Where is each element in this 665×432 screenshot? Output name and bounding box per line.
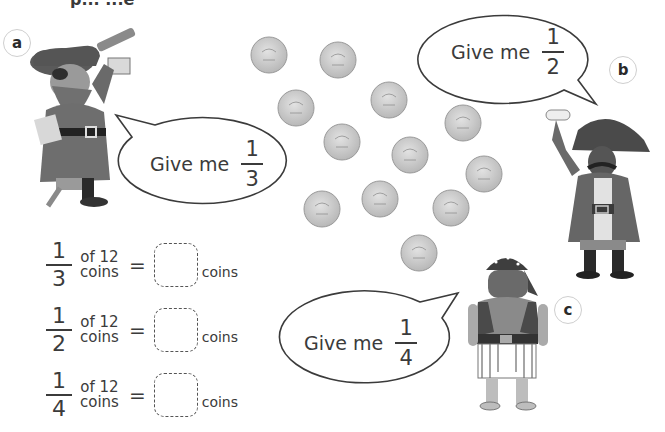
coin: [362, 181, 398, 217]
of-unit: coins: [80, 265, 119, 280]
answer-unit: coins: [202, 394, 238, 410]
of-quantity: of 12 coins: [80, 250, 119, 280]
bubble-c-prefix: Give me: [304, 332, 383, 354]
coin: [401, 235, 437, 271]
equation-fraction: 1 3: [44, 240, 74, 290]
coin: [466, 156, 502, 192]
bubble-a-text: Give me 1 3: [150, 138, 263, 190]
coin: [371, 82, 407, 118]
pirate-c-illustration: [468, 256, 548, 410]
bubble-b-denominator: 2: [547, 56, 560, 78]
of-quantity: of 12 coins: [80, 315, 119, 345]
coin: [320, 42, 356, 78]
equation-fraction: 1 4: [44, 370, 74, 420]
fraction-bar: [241, 163, 263, 165]
equation-row-quarter: 1 4 of 12 coins = coins: [44, 370, 238, 420]
equation-numerator: 1: [52, 370, 66, 392]
answer-unit: coins: [202, 329, 238, 345]
label-a: a: [3, 29, 31, 57]
bubble-c-numerator: 1: [400, 317, 413, 339]
bubble-c-denominator: 4: [400, 347, 413, 369]
answer-unit: coins: [202, 264, 238, 280]
bubble-c-fraction: 1 4: [395, 317, 417, 369]
coin: [251, 37, 287, 73]
label-b: b: [609, 56, 637, 84]
bubble-b-numerator: 1: [547, 26, 560, 48]
bubble-b-fraction: 1 2: [542, 26, 564, 78]
coin: [392, 137, 428, 173]
equals-sign: =: [129, 253, 146, 277]
bubble-b-text: Give me 1 2: [451, 26, 564, 78]
answer-box-quarter[interactable]: [154, 373, 198, 417]
equation-numerator: 1: [52, 305, 66, 327]
coin: [304, 191, 340, 227]
equation-fraction: 1 2: [44, 305, 74, 355]
bubble-b-prefix: Give me: [451, 41, 530, 63]
of-unit: coins: [80, 395, 119, 410]
bubble-c-text: Give me 1 4: [304, 317, 417, 369]
coin: [278, 90, 314, 126]
coin: [324, 124, 360, 160]
of-quantity: of 12 coins: [80, 380, 119, 410]
answer-box-third[interactable]: [154, 243, 198, 287]
equation-row-third: 1 3 of 12 coins = coins: [44, 240, 238, 290]
bubble-a-fraction: 1 3: [241, 138, 263, 190]
coin: [445, 105, 481, 141]
equation-denominator: 2: [52, 333, 66, 355]
label-c: c: [554, 296, 582, 324]
equals-sign: =: [129, 318, 146, 342]
of-unit: coins: [80, 330, 119, 345]
equals-sign: =: [129, 383, 146, 407]
equation-denominator: 3: [52, 268, 66, 290]
equation-row-half: 1 2 of 12 coins = coins: [44, 305, 238, 355]
coin: [433, 190, 469, 226]
bubble-a-denominator: 3: [246, 168, 259, 190]
equation-numerator: 1: [52, 240, 66, 262]
equation-denominator: 4: [52, 398, 66, 420]
answer-box-half[interactable]: [154, 308, 198, 352]
fraction-bar: [542, 51, 564, 53]
pirate-b-illustration: [546, 110, 650, 279]
bubble-a-prefix: Give me: [150, 153, 229, 175]
fraction-bar: [395, 342, 417, 344]
bubble-a-numerator: 1: [246, 138, 259, 160]
